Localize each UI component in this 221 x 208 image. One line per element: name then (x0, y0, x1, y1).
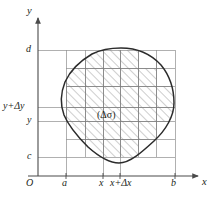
y-tick-label-y: y (27, 115, 31, 125)
x-tick-label-x-plus-delta-x: x+Δx (110, 178, 132, 188)
figure-canvas: y x O d y+Δy y c a x x+Δx b (Δσ) (0, 0, 221, 208)
y-tick-label-d: d (26, 44, 31, 54)
x-tick-label-a: a (62, 178, 67, 188)
origin-label: O (26, 178, 33, 188)
y-tick-label-y-plus-delta-y: y+Δy (3, 101, 25, 111)
y-axis-label: y (27, 6, 32, 17)
hatched-area (60, 44, 182, 168)
y-tick-label-c: c (27, 151, 31, 161)
area-element-label: (Δσ) (97, 110, 115, 120)
x-axis-label: x (202, 177, 207, 188)
x-tick-label-b: b (171, 178, 176, 188)
x-tick-label-x: x (99, 178, 103, 188)
